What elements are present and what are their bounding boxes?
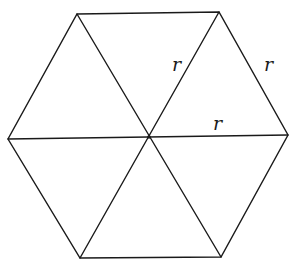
center-point bbox=[147, 135, 151, 139]
diagonal-topright-bottomleft bbox=[80, 12, 219, 258]
label-r-outer-edge: r bbox=[264, 53, 275, 75]
hexagon-svg: r r r bbox=[0, 0, 289, 259]
label-r-radius-horizontal: r bbox=[213, 112, 224, 134]
label-r-radius-upper: r bbox=[172, 53, 183, 75]
hexagon-diagram: r r r bbox=[0, 0, 289, 259]
